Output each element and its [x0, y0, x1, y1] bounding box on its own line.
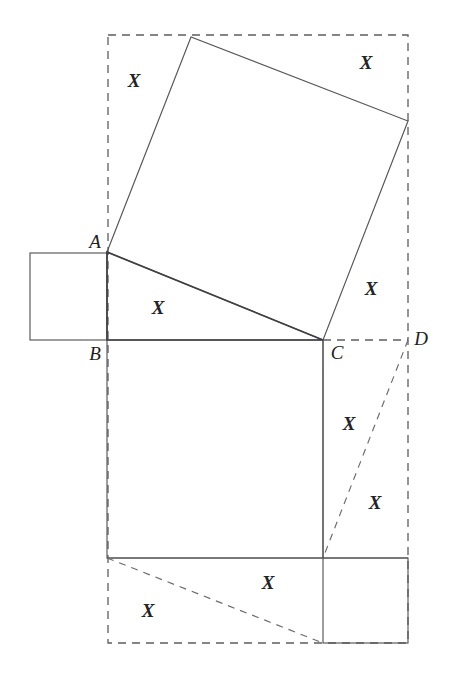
square-on-ab: [30, 253, 107, 340]
area-label-x-bottom-left: X: [142, 601, 155, 620]
area-label-x-bottom-right: X: [262, 573, 275, 592]
dashed-diagonal-right-strip: [323, 340, 408, 558]
geometry-canvas: [0, 0, 451, 683]
bottom-right-square: [323, 558, 408, 643]
area-label-x-triangle: X: [152, 298, 165, 317]
square-on-hypotenuse: [107, 37, 408, 340]
area-label-x-top-left: X: [128, 71, 141, 90]
area-label-x-right-upper: X: [365, 279, 378, 298]
vertex-label-c: C: [331, 343, 344, 362]
square-on-bc: [107, 340, 323, 558]
vertex-label-a: A: [89, 232, 101, 251]
vertex-label-d: D: [414, 329, 428, 348]
geometry-figure: X X X X X X X X A B C D: [0, 0, 451, 683]
area-label-x-right-strip-lower: X: [369, 493, 382, 512]
vertex-label-b: B: [89, 344, 101, 363]
area-label-x-right-strip-upper: X: [343, 414, 356, 433]
dashed-diagonal-bottom-strip: [107, 558, 323, 643]
right-triangle-abc: [107, 252, 323, 340]
dashed-bounding-box: [108, 35, 408, 643]
area-label-x-top-right: X: [360, 53, 373, 72]
